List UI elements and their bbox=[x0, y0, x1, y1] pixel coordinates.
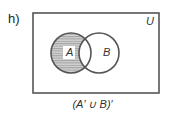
universe-label: U bbox=[146, 15, 154, 27]
set-label-a: A bbox=[66, 46, 73, 58]
circle-b bbox=[79, 33, 119, 73]
set-expression-caption: (A′ ∪ B)′ bbox=[0, 98, 171, 111]
set-label-b: B bbox=[103, 46, 110, 58]
